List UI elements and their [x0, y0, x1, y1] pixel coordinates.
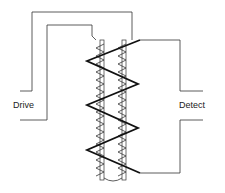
drive-label: Drive [13, 100, 34, 110]
thick-coil [87, 40, 140, 173]
bottom-loop [104, 178, 122, 181]
detect-label: Detect [179, 100, 205, 110]
coil-diagram [0, 0, 225, 193]
detect-lead-top [140, 40, 203, 91]
detect-lead-bottom [140, 120, 203, 173]
drive-lead-outer [20, 12, 132, 91]
